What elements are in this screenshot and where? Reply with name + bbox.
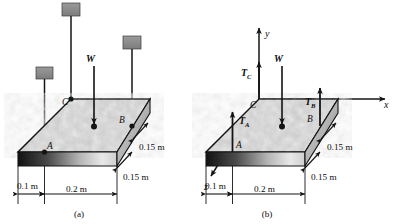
label-weight-b: W bbox=[274, 53, 284, 64]
label-dim-b-2: 0.2 m bbox=[254, 184, 275, 194]
label-axis-x: x bbox=[383, 99, 389, 110]
label-dim-a-4: 0.15 m bbox=[123, 172, 149, 182]
panel-b: y x z TC TA bbox=[203, 28, 389, 219]
label-tension-b: TB bbox=[305, 96, 316, 109]
label-dim-a-3: 0.15 m bbox=[139, 142, 165, 152]
block-c bbox=[62, 3, 80, 16]
label-point-b-a: B bbox=[119, 115, 125, 125]
label-tension-c: TC bbox=[241, 67, 252, 80]
block-a bbox=[36, 67, 53, 79]
panel-a: C A B W 0.15 m 0.15 m 0.1 m 0.2 m bbox=[17, 3, 165, 219]
plate-a bbox=[18, 99, 150, 166]
label-point-a-a: A bbox=[46, 141, 53, 151]
weight-point-b bbox=[279, 124, 285, 130]
label-tension-b-sub: B bbox=[310, 102, 316, 109]
plate-a-front-edge bbox=[18, 152, 117, 166]
label-axis-y: y bbox=[264, 28, 270, 39]
label-point-b-b: B bbox=[307, 114, 313, 124]
weight-point-a bbox=[91, 124, 97, 130]
caption-b: (b) bbox=[262, 209, 273, 219]
label-point-c-a: C bbox=[62, 97, 69, 107]
label-point-c-b: C bbox=[250, 100, 257, 110]
label-dim-b-3: 0.15 m bbox=[327, 142, 353, 152]
label-tension-c-sub: C bbox=[247, 73, 252, 80]
point-c-dot bbox=[68, 96, 73, 101]
label-tension-a-sub: A bbox=[244, 121, 250, 128]
engineering-figure: C A B W 0.15 m 0.15 m 0.1 m 0.2 m bbox=[0, 0, 410, 224]
label-dim-b-4: 0.15 m bbox=[311, 172, 337, 182]
label-dim-b-1: 0.1 m bbox=[205, 181, 226, 191]
label-dim-a-1: 0.1 m bbox=[17, 181, 38, 191]
plate-b-front-edge bbox=[206, 152, 305, 166]
label-point-a-b: A bbox=[235, 140, 242, 150]
block-b bbox=[123, 36, 141, 49]
caption-a: (a) bbox=[74, 209, 84, 219]
label-weight-a: W bbox=[86, 53, 96, 64]
point-b-dot bbox=[129, 123, 134, 128]
figure-canvas: C A B W 0.15 m 0.15 m 0.1 m 0.2 m bbox=[0, 0, 410, 224]
plate-b bbox=[206, 99, 338, 166]
label-dim-a-2: 0.2 m bbox=[66, 184, 87, 194]
